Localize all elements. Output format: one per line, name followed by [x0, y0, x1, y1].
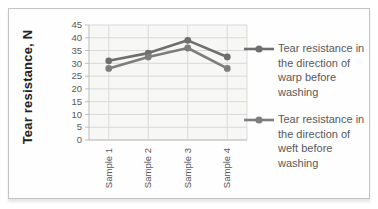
data-point-marker [105, 65, 112, 72]
legend-label-weft: Tear resistance in the direction of weft… [278, 112, 369, 170]
legend-line-marker-icon [243, 43, 275, 55]
y-tick-label: 35 [71, 45, 82, 56]
data-point-marker [145, 54, 152, 61]
x-tick-label: Sample 4 [221, 148, 232, 188]
x-tick-label: Sample 2 [142, 148, 153, 188]
data-point-marker [224, 65, 231, 72]
y-tick-label: 0 [77, 134, 82, 145]
line-chart-plot-area: 051015202530354045Sample 1Sample 2Sample… [55, 15, 255, 195]
y-tick-label: 10 [71, 109, 82, 120]
chart-frame: Tear resistance, N 051015202530354045Sam… [8, 8, 370, 199]
legend-item-warp: Tear resistance in the direction of warp… [243, 41, 369, 99]
data-point-marker [184, 37, 191, 44]
data-point-marker [105, 57, 112, 64]
legend-item-weft: Tear resistance in the direction of weft… [243, 112, 369, 170]
y-axis-title: Tear resistance, N [20, 21, 38, 153]
data-point-marker [224, 54, 231, 61]
y-tick-label: 15 [71, 96, 82, 107]
y-tick-label: 40 [71, 32, 82, 43]
y-tick-label: 30 [71, 58, 82, 69]
data-point-marker [184, 45, 191, 52]
legend-line-marker-icon [243, 114, 275, 126]
x-tick-label: Sample 1 [103, 148, 114, 188]
y-tick-label: 5 [77, 121, 82, 132]
plot-background [89, 25, 247, 140]
y-tick-label: 25 [71, 70, 82, 81]
y-tick-label: 20 [71, 83, 82, 94]
chart-legend: Tear resistance in the direction of warp… [243, 41, 369, 170]
legend-label-warp: Tear resistance in the direction of warp… [278, 41, 369, 99]
y-tick-label: 45 [71, 19, 82, 30]
x-tick-label: Sample 3 [182, 148, 193, 188]
